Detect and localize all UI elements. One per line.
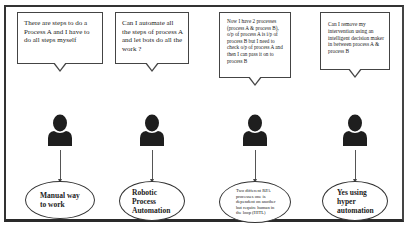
question-text: Can I remove my intervention using an in… [328, 21, 384, 54]
down-arrow [60, 150, 61, 180]
person-icon [139, 114, 165, 146]
down-arrow [255, 150, 256, 180]
bubble-tail [248, 77, 262, 86]
question-text: Can I automate all the steps of process … [122, 19, 183, 53]
stage-manual: There are steps to do a Process A and I … [8, 0, 108, 229]
down-arrow [355, 150, 356, 180]
speech-bubble: Now I have 2 processes (process A & proc… [219, 12, 291, 78]
bubble-tail [145, 63, 159, 72]
bubble-tail [348, 69, 362, 78]
down-arrow [152, 150, 153, 180]
outcome-oval: Robotic Process Automation [119, 181, 185, 221]
outcome-oval: Two different RPA processes one is depen… [219, 181, 291, 223]
stage-rpa: Can I automate all the steps of process … [102, 0, 202, 229]
outcome-oval: Manual way to work [25, 181, 95, 219]
stage-hitl: Now I have 2 processes (process A & proc… [205, 0, 305, 229]
bubble-tail [53, 63, 67, 72]
outcome-text: Yes using hyper automation [337, 188, 377, 215]
outcome-oval: Yes using hyper automation [322, 181, 388, 221]
person-icon [242, 114, 268, 146]
person-icon [342, 114, 368, 146]
stage-hyperautomation: Can I remove my intervention using an in… [305, 0, 405, 229]
outcome-text: Manual way to work [40, 191, 82, 209]
outcome-text: Two different RPA processes one is depen… [236, 188, 276, 216]
question-text: There are steps to do a Process A and I … [24, 19, 90, 44]
speech-bubble: There are steps to do a Process A and I … [17, 12, 103, 64]
question-text: Now I have 2 processes (process A & proc… [227, 18, 283, 64]
person-icon [47, 114, 73, 146]
outcome-text: Robotic Process Automation [132, 188, 176, 215]
speech-bubble: Can I remove my intervention using an in… [320, 12, 390, 70]
speech-bubble: Can I automate all the steps of process … [115, 12, 189, 64]
